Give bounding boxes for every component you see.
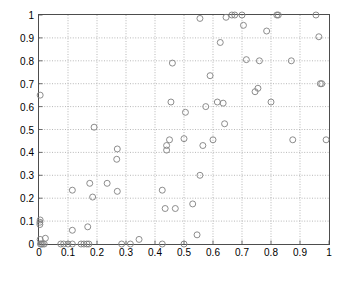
data-point [172,206,178,212]
data-point [313,12,319,18]
data-point [214,99,220,105]
data-point [37,92,43,98]
x-axis-tick-label: 0.9 [293,247,307,258]
data-point [316,34,322,40]
y-axis-tick-label: 0.5 [20,124,34,135]
y-axis-tick-label: 0 [28,239,34,250]
data-point [159,187,165,193]
y-axis-tick-label: 0.7 [20,78,34,89]
data-point [200,143,206,149]
data-point [240,22,246,28]
y-axis-tick-label: 0.3 [20,170,34,181]
y-axis-tick-label: 1 [28,10,34,21]
data-point [194,232,200,238]
data-point [197,15,203,21]
data-point [243,57,249,63]
x-axis-tick-label: 1 [326,247,332,258]
y-axis-tick-label: 0.2 [20,193,34,204]
data-point [169,60,175,66]
x-axis-tick-label: 0.1 [61,247,75,258]
data-point [114,156,120,162]
data-point [220,100,226,106]
data-point [168,99,174,105]
scatter-plot-figure: 00.10.20.30.40.50.60.70.80.91 00.10.20.3… [0,0,344,281]
data-point [69,227,75,233]
data-point [203,104,209,110]
data-point [190,201,196,207]
data-point [207,73,213,79]
data-point [114,146,120,152]
data-point [217,39,223,45]
data-point [85,224,91,230]
data-point [164,143,170,149]
x-axis-tick-label: 0 [36,247,42,258]
data-point [69,187,75,193]
x-axis-tick-label: 0.3 [119,247,133,258]
data-point [222,121,228,127]
data-point [197,172,203,178]
data-point [136,236,142,242]
data-point [182,109,188,115]
data-point [323,137,329,143]
data-point [114,188,120,194]
x-axis-tick-label: 0.5 [177,247,191,258]
y-axis-tick-label: 0.6 [20,101,34,112]
data-point [181,136,187,142]
data-point [264,28,270,34]
x-axis-tick-label: 0.8 [264,247,278,258]
x-axis-tick-labels: 00.10.20.30.40.50.60.70.80.91 [38,247,330,267]
data-point [268,99,274,105]
data-point [162,206,168,212]
data-point [167,137,173,143]
x-axis-tick-label: 0.2 [90,247,104,258]
data-point [210,137,216,143]
data-points-layer [39,15,329,244]
data-point [87,180,93,186]
x-axis-tick-label: 0.6 [206,247,220,258]
data-point [91,124,97,130]
x-axis-tick-label: 0.7 [235,247,249,258]
data-point [256,58,262,64]
y-axis-tick-label: 0.9 [20,32,34,43]
data-point [290,137,296,143]
y-axis-tick-label: 0.1 [20,216,34,227]
data-point [90,194,96,200]
y-axis-tick-label: 0.4 [20,147,34,158]
plot-area [38,14,330,245]
data-point [223,14,229,20]
data-point [239,12,245,18]
data-point [288,58,294,64]
y-axis-tick-labels: 00.10.20.30.40.50.60.70.80.91 [0,14,34,245]
data-point [104,180,110,186]
x-axis-tick-label: 0.4 [148,247,162,258]
y-axis-tick-label: 0.8 [20,55,34,66]
